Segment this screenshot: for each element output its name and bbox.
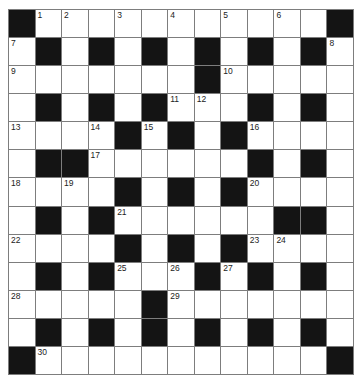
answer-cell[interactable]: 15 xyxy=(142,122,168,149)
answer-cell[interactable] xyxy=(327,122,353,149)
answer-cell[interactable] xyxy=(89,178,115,205)
answer-cell[interactable] xyxy=(36,291,62,318)
answer-cell[interactable] xyxy=(36,178,62,205)
answer-cell[interactable] xyxy=(195,10,221,37)
answer-cell[interactable] xyxy=(62,347,88,374)
answer-cell[interactable] xyxy=(195,178,221,205)
answer-cell[interactable] xyxy=(301,10,327,37)
answer-cell[interactable] xyxy=(168,319,194,346)
answer-cell[interactable]: 28 xyxy=(9,291,35,318)
answer-cell[interactable] xyxy=(89,10,115,37)
answer-cell[interactable]: 30 xyxy=(36,347,62,374)
answer-cell[interactable]: 5 xyxy=(221,10,247,37)
answer-cell[interactable] xyxy=(221,319,247,346)
answer-cell[interactable] xyxy=(274,178,300,205)
answer-cell[interactable]: 8 xyxy=(327,38,353,65)
answer-cell[interactable] xyxy=(301,235,327,262)
answer-cell[interactable] xyxy=(195,291,221,318)
answer-cell[interactable] xyxy=(248,207,274,234)
answer-cell[interactable] xyxy=(221,347,247,374)
answer-cell[interactable] xyxy=(327,66,353,93)
answer-cell[interactable] xyxy=(274,347,300,374)
answer-cell[interactable] xyxy=(327,235,353,262)
answer-cell[interactable]: 3 xyxy=(115,10,141,37)
answer-cell[interactable] xyxy=(274,319,300,346)
answer-cell[interactable] xyxy=(115,150,141,177)
answer-cell[interactable] xyxy=(142,347,168,374)
answer-cell[interactable]: 20 xyxy=(248,178,274,205)
answer-cell[interactable] xyxy=(9,319,35,346)
answer-cell[interactable] xyxy=(115,38,141,65)
answer-cell[interactable] xyxy=(89,66,115,93)
answer-cell[interactable] xyxy=(327,291,353,318)
answer-cell[interactable] xyxy=(168,150,194,177)
answer-cell[interactable] xyxy=(115,66,141,93)
answer-cell[interactable] xyxy=(221,150,247,177)
answer-cell[interactable] xyxy=(168,38,194,65)
answer-cell[interactable] xyxy=(62,66,88,93)
answer-cell[interactable]: 26 xyxy=(168,263,194,290)
answer-cell[interactable]: 16 xyxy=(248,122,274,149)
answer-cell[interactable]: 14 xyxy=(89,122,115,149)
answer-cell[interactable] xyxy=(62,207,88,234)
answer-cell[interactable] xyxy=(327,207,353,234)
answer-cell[interactable] xyxy=(327,150,353,177)
answer-cell[interactable] xyxy=(274,150,300,177)
answer-cell[interactable] xyxy=(142,178,168,205)
answer-cell[interactable]: 25 xyxy=(115,263,141,290)
answer-cell[interactable] xyxy=(115,319,141,346)
answer-cell[interactable] xyxy=(274,122,300,149)
answer-cell[interactable]: 24 xyxy=(274,235,300,262)
answer-cell[interactable] xyxy=(327,319,353,346)
answer-cell[interactable] xyxy=(115,94,141,121)
answer-cell[interactable] xyxy=(195,235,221,262)
answer-cell[interactable] xyxy=(62,263,88,290)
answer-cell[interactable] xyxy=(327,178,353,205)
answer-cell[interactable] xyxy=(221,291,247,318)
answer-cell[interactable] xyxy=(248,291,274,318)
answer-cell[interactable] xyxy=(89,291,115,318)
answer-cell[interactable]: 19 xyxy=(62,178,88,205)
answer-cell[interactable] xyxy=(274,291,300,318)
answer-cell[interactable] xyxy=(36,235,62,262)
answer-cell[interactable] xyxy=(195,122,221,149)
answer-cell[interactable] xyxy=(327,263,353,290)
answer-cell[interactable] xyxy=(301,291,327,318)
answer-cell[interactable] xyxy=(195,347,221,374)
answer-cell[interactable] xyxy=(301,347,327,374)
answer-cell[interactable]: 21 xyxy=(115,207,141,234)
answer-cell[interactable] xyxy=(142,66,168,93)
answer-cell[interactable] xyxy=(248,66,274,93)
answer-cell[interactable]: 17 xyxy=(89,150,115,177)
answer-cell[interactable] xyxy=(62,94,88,121)
answer-cell[interactable]: 11 xyxy=(168,94,194,121)
answer-cell[interactable]: 12 xyxy=(195,94,221,121)
answer-cell[interactable]: 2 xyxy=(62,10,88,37)
answer-cell[interactable] xyxy=(142,235,168,262)
answer-cell[interactable] xyxy=(168,66,194,93)
answer-cell[interactable] xyxy=(168,347,194,374)
answer-cell[interactable] xyxy=(274,94,300,121)
answer-cell[interactable]: 27 xyxy=(221,263,247,290)
answer-cell[interactable] xyxy=(327,94,353,121)
answer-cell[interactable] xyxy=(62,38,88,65)
answer-cell[interactable] xyxy=(36,66,62,93)
answer-cell[interactable] xyxy=(248,347,274,374)
answer-cell[interactable]: 18 xyxy=(9,178,35,205)
answer-cell[interactable] xyxy=(142,207,168,234)
answer-cell[interactable] xyxy=(142,263,168,290)
answer-cell[interactable] xyxy=(142,150,168,177)
answer-cell[interactable] xyxy=(115,347,141,374)
answer-cell[interactable]: 23 xyxy=(248,235,274,262)
answer-cell[interactable]: 9 xyxy=(9,66,35,93)
answer-cell[interactable] xyxy=(301,66,327,93)
answer-cell[interactable] xyxy=(274,263,300,290)
answer-cell[interactable] xyxy=(274,66,300,93)
answer-cell[interactable]: 4 xyxy=(168,10,194,37)
answer-cell[interactable] xyxy=(9,150,35,177)
answer-cell[interactable] xyxy=(62,319,88,346)
answer-cell[interactable] xyxy=(9,94,35,121)
answer-cell[interactable] xyxy=(142,10,168,37)
answer-cell[interactable] xyxy=(36,122,62,149)
answer-cell[interactable] xyxy=(221,94,247,121)
